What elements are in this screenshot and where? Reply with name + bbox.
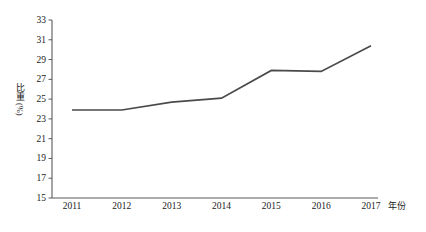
line-chart: 比重 (%) 33312927252321191715 201120122013… xyxy=(0,0,426,232)
plot-area xyxy=(0,0,426,232)
data-series-line xyxy=(72,46,371,110)
axis-lines xyxy=(52,20,378,198)
